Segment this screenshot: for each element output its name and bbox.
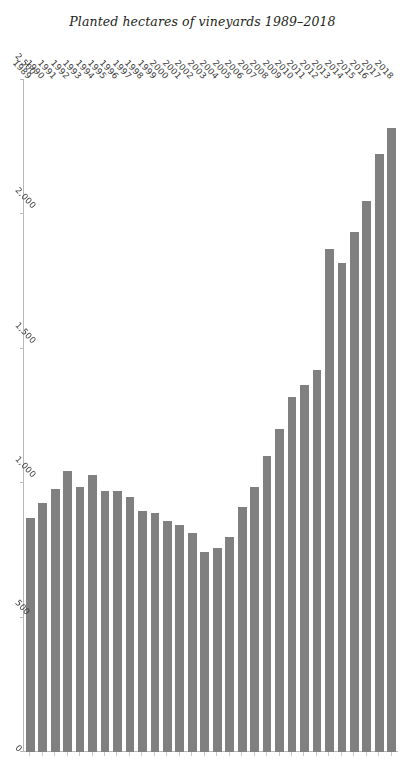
- bar-1993: [76, 487, 85, 752]
- category-tick-1991: [54, 752, 55, 756]
- bar-2014: [338, 263, 347, 752]
- category-tick-2013: [328, 752, 329, 756]
- bar-1998: [138, 511, 147, 752]
- category-tick-1993: [79, 752, 80, 756]
- category-tick-1998: [141, 752, 142, 756]
- value-tick-500: [20, 617, 24, 618]
- category-tick-2009: [279, 752, 280, 756]
- category-tick-2017: [378, 752, 379, 756]
- bar-2017: [375, 154, 384, 752]
- value-tick-0: [20, 751, 24, 752]
- category-tick-2005: [229, 752, 230, 756]
- value-label-text: 0: [13, 743, 24, 754]
- category-tick-1990: [42, 752, 43, 756]
- category-tick-1996: [117, 752, 118, 756]
- bar-1995: [101, 491, 110, 752]
- category-tick-1997: [129, 752, 130, 756]
- bar-1990: [38, 503, 47, 752]
- category-tick-2018: [391, 752, 392, 756]
- category-tick-1992: [67, 752, 68, 756]
- category-tick-2010: [291, 752, 292, 756]
- category-tick-1994: [92, 752, 93, 756]
- bar-2004: [213, 548, 222, 752]
- bar-1991: [51, 489, 60, 752]
- value-tick-1000: [20, 482, 24, 483]
- rotated-figure-wrapper: Planted hectares of vineyards 1989–2018 …: [0, 0, 406, 762]
- bar-2005: [225, 537, 234, 752]
- category-tick-1995: [104, 752, 105, 756]
- value-axis-line: [23, 80, 24, 752]
- category-tick-2007: [254, 752, 255, 756]
- category-tick-2014: [341, 752, 342, 756]
- value-tick-2000: [20, 213, 24, 214]
- category-tick-2006: [241, 752, 242, 756]
- bar-2011: [300, 385, 309, 752]
- bar-2007: [250, 487, 259, 752]
- category-tick-2016: [366, 752, 367, 756]
- axis-title-text: Planted hectares of vineyards 1989–2018: [70, 14, 336, 29]
- bar-2016: [362, 201, 371, 752]
- bar-2000: [163, 521, 172, 752]
- bar-2015: [350, 232, 359, 752]
- bar-1999: [151, 513, 160, 752]
- category-tick-1999: [154, 752, 155, 756]
- category-tick-2003: [204, 752, 205, 756]
- bar-2018: [387, 128, 396, 752]
- category-tick-2004: [216, 752, 217, 756]
- bar-2010: [288, 397, 297, 752]
- bar-chart-figure: Planted hectares of vineyards 1989–2018 …: [0, 0, 406, 762]
- axis-title: Planted hectares of vineyards 1989–2018: [0, 6, 406, 36]
- bar-1992: [63, 471, 72, 752]
- bar-2008: [263, 456, 272, 752]
- bar-2003: [200, 552, 209, 752]
- category-tick-2000: [166, 752, 167, 756]
- bar-2009: [275, 429, 284, 752]
- bar-2001: [175, 525, 184, 752]
- category-tick-2008: [266, 752, 267, 756]
- value-tick-1500: [20, 348, 24, 349]
- plot-area: [24, 80, 398, 752]
- bar-2006: [238, 507, 247, 752]
- bar-1997: [126, 497, 135, 752]
- category-tick-2011: [304, 752, 305, 756]
- bar-1994: [88, 475, 97, 752]
- category-tick-2001: [179, 752, 180, 756]
- category-axis: 2018201720162015201420132012201120102009…: [0, 36, 406, 80]
- bar-2013: [325, 249, 334, 752]
- bar-2012: [313, 370, 322, 752]
- bar-1989: [26, 518, 35, 752]
- category-tick-2002: [191, 752, 192, 756]
- value-axis: 2,5002,0001,5001,0005000: [0, 80, 24, 752]
- category-tick-2012: [316, 752, 317, 756]
- bar-2002: [188, 533, 197, 752]
- category-tick-2015: [353, 752, 354, 756]
- value-tick-2500: [20, 79, 24, 80]
- category-tick-1989: [29, 752, 30, 756]
- bar-1996: [113, 491, 122, 752]
